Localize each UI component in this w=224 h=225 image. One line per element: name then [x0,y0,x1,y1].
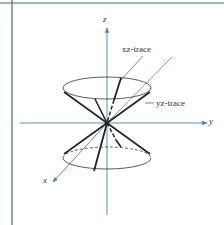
z-axis-label: z [103,15,107,24]
upper-cone-left-edge [64,92,107,123]
lower-cone-right-edge [107,123,150,154]
x-axis-label: x [43,176,47,185]
yz-trace-label: yz-trace [156,99,185,108]
upper-cone-right-edge [107,92,150,123]
yz-trace-upper-front [114,78,121,100]
xz-trace-label: xz-trace [122,45,151,54]
cone-vertex [105,121,109,125]
yz-trace-lower-back [116,140,121,147]
xz-trace-leader [121,56,143,80]
double-cone-diagram [0,0,224,225]
y-axis-label: y [209,117,213,126]
